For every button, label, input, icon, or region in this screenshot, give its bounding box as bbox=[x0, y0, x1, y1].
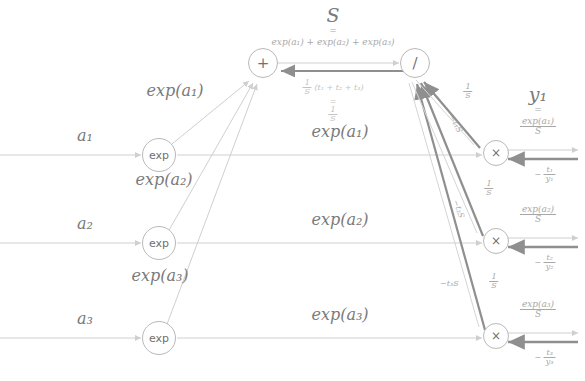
sum-gradient: 1 S (t₁ + t₂ + t₃) bbox=[302, 79, 363, 97]
output-y3-fraction: exp(a₃) S bbox=[520, 300, 556, 320]
output-grad-1-sign: − bbox=[535, 170, 542, 179]
node-divide-label: / bbox=[412, 54, 417, 72]
input-label-a1-text: a₁ bbox=[77, 126, 93, 145]
node-exp-1-label: exp bbox=[149, 149, 169, 162]
exp-output-label-1: exp(a₁) bbox=[146, 83, 203, 100]
branch-grad-2-fraction: 1 S bbox=[484, 180, 493, 198]
node-multiply-1-label: × bbox=[491, 146, 501, 160]
exp-output-label-3-text: exp(a₃) bbox=[131, 266, 188, 285]
output-y1-fraction: exp(a₁) S bbox=[520, 117, 556, 137]
output-symbol-y1: y₁ bbox=[529, 85, 547, 105]
output-y3-num: exp(a₃) bbox=[520, 300, 556, 309]
output-grad-2-sign: − bbox=[535, 258, 542, 267]
branch-grad-3-fraction: 1 S bbox=[489, 273, 498, 291]
node-multiply-3-label: × bbox=[491, 329, 501, 343]
branch-grad-2-num: 1 bbox=[484, 180, 493, 188]
output-grad-1-num: t₁ bbox=[544, 166, 556, 174]
input-label-a3: a₃ bbox=[77, 311, 93, 328]
output-y1-equals-text: = bbox=[534, 105, 542, 115]
output-grad-1-frac: t₁ y₁ bbox=[544, 166, 556, 184]
forward-div-branch-edges bbox=[409, 80, 479, 327]
branch-grad-3: 1 S bbox=[489, 273, 498, 291]
branch-grad-1-fraction: 1 S bbox=[463, 83, 472, 101]
node-exp-3[interactable]: exp bbox=[142, 321, 176, 355]
computational-graph: + / exp exp exp × × × S = exp(a₁) + exp(… bbox=[0, 0, 585, 381]
output-grad-2-num: t₂ bbox=[544, 254, 556, 262]
output-y2-num: exp(a₂) bbox=[520, 205, 556, 214]
input-label-a1: a₁ bbox=[77, 128, 93, 145]
node-multiply-1[interactable]: × bbox=[483, 140, 509, 166]
mid-forward-label-1-text: exp(a₁) bbox=[311, 122, 368, 141]
output-grad-3-sign: − bbox=[535, 353, 542, 362]
branch-grad-2-den: S bbox=[484, 188, 493, 197]
branch-grad-1: 1 S bbox=[463, 83, 472, 101]
forward-sum-edges bbox=[166, 81, 257, 327]
output-y2-frac: exp(a₂) S bbox=[520, 205, 556, 225]
node-exp-3-label: exp bbox=[149, 332, 169, 345]
mid-forward-label-2-text: exp(a₂) bbox=[311, 210, 368, 229]
sum-equals-text: = bbox=[329, 26, 337, 36]
output-symbol-y1-text: y₁ bbox=[529, 83, 547, 105]
output-y1-den: S bbox=[520, 126, 556, 136]
mid-forward-label-1: exp(a₁) bbox=[311, 124, 368, 141]
node-divide[interactable]: / bbox=[400, 48, 430, 78]
output-grad-3: − t₃ y₃ bbox=[535, 349, 556, 367]
node-multiply-3[interactable]: × bbox=[483, 323, 509, 349]
input-label-a3-text: a₃ bbox=[77, 309, 93, 328]
node-exp-1[interactable]: exp bbox=[142, 138, 176, 172]
forward-input-edges bbox=[0, 155, 141, 338]
exp-output-label-2-text: exp(a₂) bbox=[135, 170, 192, 189]
diag-grad-3: −t₃S bbox=[440, 280, 459, 288]
sum-gradient-fraction: 1 S bbox=[302, 79, 311, 97]
output-y1-frac: exp(a₁) S bbox=[520, 117, 556, 137]
output-y3-frac: exp(a₃) S bbox=[520, 300, 556, 320]
output-y3-den: S bbox=[520, 309, 556, 319]
sum-gradient-den: S bbox=[302, 87, 311, 96]
input-label-a2-text: a₂ bbox=[77, 214, 93, 233]
output-grad-3-num: t₃ bbox=[544, 349, 556, 357]
mid-forward-label-3: exp(a₃) bbox=[311, 307, 368, 324]
exp-output-label-3: exp(a₃) bbox=[131, 268, 188, 285]
output-y2-den: S bbox=[520, 214, 556, 224]
branch-grad-1-den: S bbox=[463, 91, 472, 100]
node-plus[interactable]: + bbox=[248, 48, 278, 78]
sum-gradient-num: 1 bbox=[302, 79, 311, 87]
sum-equals-sign: = bbox=[329, 27, 337, 36]
output-y1-num: exp(a₁) bbox=[520, 117, 556, 126]
mid-forward-label-3-text: exp(a₃) bbox=[311, 305, 368, 324]
output-grad-2-frac: t₂ y₂ bbox=[544, 254, 556, 272]
branch-grad-2: 1 S bbox=[484, 180, 493, 198]
exp-output-label-1-text: exp(a₁) bbox=[146, 81, 203, 100]
branch-grad-3-den: S bbox=[489, 281, 498, 290]
output-grad-2: − t₂ y₂ bbox=[535, 254, 556, 272]
output-y2-fraction: exp(a₂) S bbox=[520, 205, 556, 225]
node-multiply-2[interactable]: × bbox=[483, 228, 509, 254]
node-multiply-2-label: × bbox=[491, 234, 501, 248]
sum-expression-text: exp(a₁) + exp(a₂) + exp(a₃) bbox=[271, 37, 394, 47]
sum-gradient-simple-num: 1 bbox=[328, 106, 337, 114]
sum-expression: exp(a₁) + exp(a₂) + exp(a₃) bbox=[271, 38, 394, 47]
node-plus-label: + bbox=[257, 54, 270, 72]
node-exp-2-label: exp bbox=[149, 237, 169, 250]
node-exp-2[interactable]: exp bbox=[142, 226, 176, 260]
sum-symbol-text: S bbox=[326, 4, 339, 26]
output-grad-3-frac: t₃ y₃ bbox=[544, 349, 556, 367]
output-grad-1: − t₁ y₁ bbox=[535, 166, 556, 184]
mid-forward-label-2: exp(a₂) bbox=[311, 212, 368, 229]
sum-gradient-paren: (t₁ + t₂ + t₃) bbox=[314, 83, 363, 92]
output-grad-1-den: y₁ bbox=[544, 174, 556, 183]
branch-grad-3-num: 1 bbox=[489, 273, 498, 281]
exp-output-label-2: exp(a₂) bbox=[135, 172, 192, 189]
sum-symbol: S bbox=[326, 6, 339, 26]
output-grad-3-den: y₃ bbox=[544, 357, 556, 366]
output-grad-2-den: y₂ bbox=[544, 262, 556, 271]
output-y1-equals: = bbox=[534, 106, 542, 115]
branch-grad-1-num: 1 bbox=[463, 83, 472, 91]
input-label-a2: a₂ bbox=[77, 216, 93, 233]
diag-grad-3-text: −t₃S bbox=[440, 279, 459, 288]
